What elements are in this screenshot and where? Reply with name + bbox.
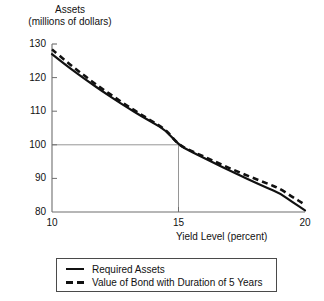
y-tick-label: 120: [16, 73, 46, 83]
legend-dashed-line-icon: [65, 277, 85, 287]
legend-label: Value of Bond with Duration of 5 Years: [92, 277, 262, 288]
chart-figure: Assets (millions of dollars) 13012011010…: [0, 0, 324, 301]
y-tick-label: 130: [16, 39, 46, 49]
y-tick-label: 100: [16, 140, 46, 150]
x-tick-label: 10: [32, 218, 72, 228]
y-tick-label: 90: [16, 173, 46, 183]
legend-item-required-assets: Required Assets: [65, 262, 165, 276]
x-tick-label: 15: [159, 218, 199, 228]
reference-lines: [52, 145, 179, 212]
y-tick-label: 110: [16, 106, 46, 116]
y-tick-label: 80: [16, 207, 46, 217]
x-tick-label: 20: [285, 218, 324, 228]
plot-area: [0, 0, 324, 301]
legend-label: Required Assets: [92, 264, 165, 275]
legend-item-bond-value: Value of Bond with Duration of 5 Years: [65, 275, 262, 289]
legend: Required Assets Value of Bond with Durat…: [56, 258, 277, 292]
x-axis-title: Yield Level (percent): [176, 231, 316, 242]
legend-solid-line-icon: [65, 264, 85, 274]
